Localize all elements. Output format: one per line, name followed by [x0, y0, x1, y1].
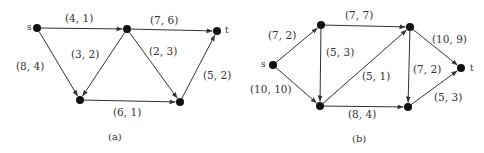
node-u2	[406, 23, 414, 31]
edge-label: (10, 9)	[432, 33, 467, 45]
edge-a1-b1	[82, 32, 124, 96]
graph-a: (4, 1)(7, 6)(3, 2)(2, 3)(8, 4)(6, 1)(5, …	[16, 12, 231, 142]
node-label-t: t	[225, 25, 229, 35]
edge-label: (5, 1)	[362, 70, 390, 82]
node-s	[269, 61, 277, 69]
edge-label: (6, 1)	[113, 106, 141, 118]
flow-network-diagram: (4, 1)(7, 6)(3, 2)(2, 3)(8, 4)(6, 1)(5, …	[0, 0, 484, 153]
edge-label: (7, 2)	[268, 29, 296, 41]
node-t	[457, 64, 465, 72]
edge-label: (8, 4)	[16, 60, 44, 72]
graph-b: (7, 2)(10, 10)(7, 7)(5, 3)(5, 1)(7, 2)(1…	[250, 9, 474, 144]
edge-label: (4, 1)	[65, 12, 93, 24]
edge-b1-b2	[84, 100, 176, 102]
caption-b: (b)	[352, 133, 366, 144]
edge-u1-u2	[325, 25, 406, 27]
node-s	[33, 24, 41, 32]
edge-label: (5, 3)	[434, 91, 462, 103]
edge-s-b1	[39, 31, 78, 96]
node-u1	[317, 21, 325, 29]
node-a1	[123, 25, 131, 33]
edge-label: (8, 4)	[348, 108, 376, 120]
node-b2	[176, 98, 184, 106]
edge-a1-t	[131, 29, 213, 31]
edge-v1-v2	[324, 106, 404, 107]
edge-label: (7, 7)	[345, 9, 373, 21]
edge-label: (5, 3)	[326, 46, 354, 58]
edge-label: (5, 2)	[203, 69, 231, 81]
edge-u2-v2	[408, 31, 410, 103]
edge-a1-b2	[129, 32, 177, 98]
edge-label: (7, 6)	[150, 14, 178, 26]
node-v2	[404, 103, 412, 111]
node-label-s: s	[27, 22, 32, 32]
edge-u1-v1	[320, 29, 321, 102]
edge-label: (10, 10)	[250, 83, 292, 95]
node-label-s: s	[261, 59, 266, 69]
edge-label: (7, 2)	[413, 63, 441, 75]
edge-label: (3, 2)	[71, 48, 99, 60]
edge-s-a1	[41, 28, 123, 29]
node-b1	[76, 96, 84, 104]
edge-b2-t	[182, 35, 215, 98]
node-label-t: t	[470, 63, 474, 73]
node-t	[213, 27, 221, 35]
edge-label: (2, 3)	[149, 45, 177, 57]
node-v1	[316, 102, 324, 110]
edge-v1-u2	[323, 30, 407, 103]
caption-a: (a)	[108, 131, 122, 142]
